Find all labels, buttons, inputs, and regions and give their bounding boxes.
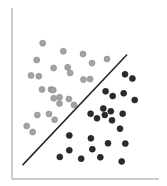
class-a-point: [36, 73, 42, 79]
class-a-point: [51, 95, 57, 101]
class-b-point: [105, 140, 111, 146]
class-b-point: [100, 106, 106, 112]
class-b-point: [122, 71, 128, 77]
class-b-point: [78, 156, 84, 162]
class-a-point: [51, 65, 57, 71]
class-a-point: [104, 56, 110, 62]
class-a-point: [65, 64, 71, 70]
class-b-point: [108, 108, 114, 114]
class-b-point: [88, 135, 94, 141]
class-a-point: [71, 102, 77, 108]
class-b-point: [66, 147, 72, 153]
class-a-point: [87, 76, 93, 82]
class-a-point: [28, 72, 34, 78]
class-a-point: [34, 57, 40, 63]
class-b-point: [132, 97, 138, 103]
class-b-point: [88, 111, 94, 117]
class-a-point: [46, 111, 52, 117]
class-b-point: [121, 90, 127, 96]
class-a-point: [30, 129, 36, 135]
class-a-point: [39, 86, 45, 92]
class-b-point: [89, 146, 95, 152]
class-b-point: [102, 112, 108, 118]
class-b-point: [117, 126, 123, 132]
class-a-point: [66, 96, 72, 102]
class-a-point: [57, 101, 63, 107]
class-a-point: [80, 51, 86, 57]
class-b-point: [66, 132, 72, 138]
class-a-point: [52, 117, 58, 123]
class-a-point: [60, 48, 66, 54]
class-b-point: [109, 117, 115, 123]
class-a-point: [80, 77, 86, 83]
class-a-point: [24, 123, 30, 129]
class-b-point: [103, 88, 109, 94]
class-a-point: [50, 87, 56, 93]
class-b-point: [120, 111, 126, 117]
class-a-point: [89, 60, 95, 66]
class-a-point: [67, 70, 73, 76]
class-b-point: [57, 154, 63, 160]
class-a-point: [40, 40, 46, 46]
scatter-chart: [0, 0, 167, 186]
class-a-point: [34, 112, 40, 118]
plot-svg: [0, 0, 167, 186]
class-a-point: [57, 94, 63, 100]
class-b-point: [110, 93, 116, 99]
class-b-point: [94, 115, 100, 121]
class-b-point: [119, 158, 125, 164]
class-b-point: [97, 154, 103, 160]
class-b-point: [122, 141, 128, 147]
class-b-point: [129, 76, 135, 82]
